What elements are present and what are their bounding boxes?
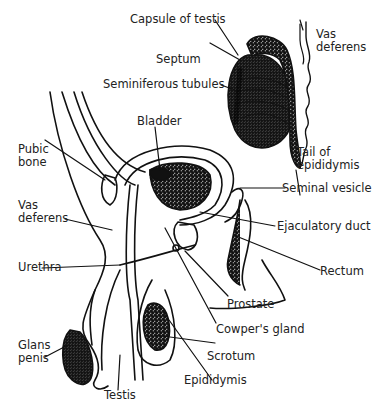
label-bladder: Bladder [137, 114, 182, 128]
label-pubic-bone-2: bone [18, 155, 47, 169]
label-cowpers-gland: Cowper's gland [216, 322, 305, 336]
label-vas-deferens-top: Vas [316, 27, 336, 41]
anatomy-diagram: Capsule of testis Vas deferens Septum Se… [0, 0, 378, 416]
label-urethra: Urethra [18, 260, 62, 274]
label-seminal-vesicle: Seminal vesicle [282, 181, 372, 195]
label-scrotum: Scrotum [207, 349, 255, 363]
label-capsule-of-testis: Capsule of testis [130, 12, 226, 26]
label-septum: Septum [156, 52, 201, 66]
label-vas-deferens-2: deferens [18, 211, 68, 225]
label-prostate: Prostate [227, 297, 274, 311]
label-testis: Testis [104, 388, 136, 402]
label-tail-of-epididymis-2: epididymis [297, 158, 360, 172]
label-vas-deferens: Vas [18, 198, 38, 212]
label-epididymis: Epididymis [184, 373, 247, 387]
label-glans-penis: Glans [18, 338, 50, 352]
label-pubic-bone: Pubic [18, 142, 49, 156]
label-glans-penis-2: penis [18, 351, 49, 365]
label-tail-of-epididymis: Tail of [297, 145, 330, 159]
label-seminiferous-tubules: Seminiferous tubules [103, 77, 224, 91]
label-rectum: Rectum [320, 264, 364, 278]
label-ejaculatory-duct: Ejaculatory duct [277, 219, 371, 233]
label-vas-deferens-top-2: deferens [316, 40, 366, 54]
